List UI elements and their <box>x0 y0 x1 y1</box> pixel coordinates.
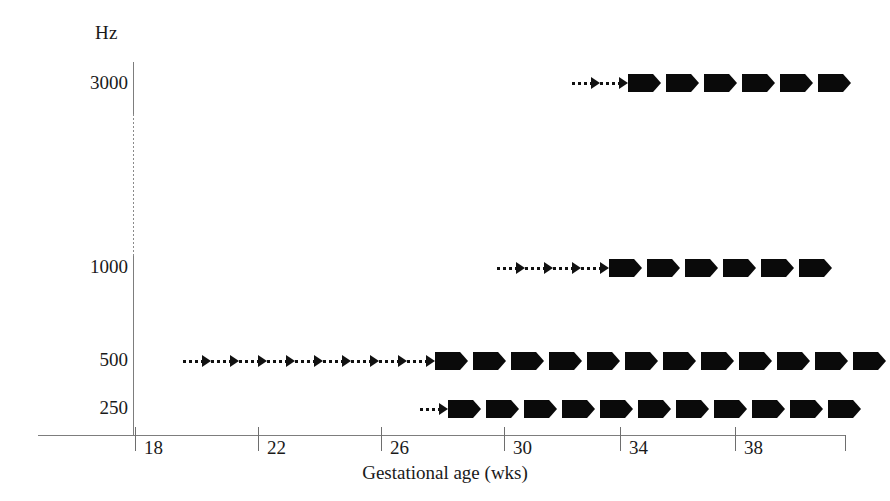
dotted-arrow-head <box>202 355 211 367</box>
solid-arrow-marker <box>435 352 468 370</box>
solid-arrow-marker <box>685 259 718 277</box>
x-tick-label: 30 <box>513 438 532 457</box>
x-axis-title: Gestational age (wks) <box>0 462 890 484</box>
y-axis-line-upper <box>133 62 134 114</box>
solid-arrow-marker <box>742 74 775 92</box>
solid-arrow-marker <box>609 259 642 277</box>
dotted-arrow-icon <box>572 77 600 90</box>
solid-arrow-marker <box>511 352 544 370</box>
dotted-arrow-icon <box>295 355 323 368</box>
solid-arrow-marker <box>600 400 633 418</box>
x-axis-end-tick <box>845 435 846 451</box>
series-row-250hz <box>420 396 861 422</box>
solid-arrow-marker <box>638 400 671 418</box>
solid-arrow-marker <box>761 259 794 277</box>
y-tick-label: 500 <box>56 350 128 369</box>
dotted-arrow-head <box>600 262 609 274</box>
x-tick-mark <box>381 427 382 451</box>
dotted-arrow-icon <box>211 355 239 368</box>
solid-arrow-marker <box>723 259 756 277</box>
dotted-arrow-icon <box>323 355 351 368</box>
solid-arrow-marker <box>448 400 481 418</box>
solid-arrow-marker <box>549 352 582 370</box>
y-axis-unit-label: Hz <box>95 22 118 44</box>
solid-arrow-marker <box>663 352 696 370</box>
x-tick-label: 34 <box>629 438 648 457</box>
dotted-arrow-icon <box>267 355 295 368</box>
solid-arrow-marker <box>828 400 861 418</box>
dotted-arrow-icon <box>525 262 553 275</box>
solid-arrow-marker <box>752 400 785 418</box>
solid-arrow-marker <box>676 400 709 418</box>
dotted-arrow-head <box>516 262 525 274</box>
dotted-arrow-head <box>314 355 323 367</box>
solid-arrow-marker <box>473 352 506 370</box>
dotted-arrow-icon <box>600 77 628 90</box>
dotted-arrow-icon <box>581 262 609 275</box>
dotted-arrow-head <box>439 403 448 415</box>
solid-arrow-marker <box>666 74 699 92</box>
solid-arrow-marker <box>780 74 813 92</box>
solid-arrow-marker <box>815 352 848 370</box>
solid-arrow-marker <box>701 352 734 370</box>
dotted-arrow-head <box>370 355 379 367</box>
solid-arrow-marker <box>486 400 519 418</box>
solid-arrow-marker <box>628 74 661 92</box>
dotted-arrow-icon <box>379 355 407 368</box>
x-tick-label: 22 <box>267 438 286 457</box>
dotted-arrow-icon <box>420 403 448 416</box>
solid-arrow-marker <box>714 400 747 418</box>
hearing-threshold-chart: Hz 30001000500250182226303438 Gestationa… <box>0 0 890 501</box>
series-row-3000hz <box>572 70 851 96</box>
dotted-arrow-icon <box>553 262 581 275</box>
dotted-arrow-head <box>544 262 553 274</box>
solid-arrow-marker <box>647 259 680 277</box>
solid-arrow-marker <box>790 400 823 418</box>
solid-arrow-marker <box>524 400 557 418</box>
solid-arrow-marker <box>799 259 832 277</box>
dotted-arrow-head <box>258 355 267 367</box>
dotted-arrow-head <box>230 355 239 367</box>
x-tick-mark <box>504 427 505 451</box>
x-tick-label: 18 <box>144 438 163 457</box>
solid-arrow-marker <box>704 74 737 92</box>
dotted-arrow-head <box>286 355 295 367</box>
dotted-arrow-icon <box>183 355 211 368</box>
x-tick-mark <box>258 427 259 451</box>
dotted-arrow-icon <box>407 355 435 368</box>
y-tick-label: 250 <box>56 398 128 417</box>
dotted-arrow-head <box>572 262 581 274</box>
x-tick-label: 26 <box>390 438 409 457</box>
y-tick-label: 1000 <box>56 257 128 276</box>
x-tick-mark <box>135 427 136 451</box>
solid-arrow-marker <box>853 352 886 370</box>
solid-arrow-marker <box>777 352 810 370</box>
solid-arrow-marker <box>562 400 595 418</box>
x-axis-line <box>38 435 845 436</box>
dotted-arrow-icon <box>497 262 525 275</box>
x-tick-label: 38 <box>744 438 763 457</box>
dotted-arrow-icon <box>351 355 379 368</box>
dotted-arrow-icon <box>239 355 267 368</box>
dotted-arrow-head <box>591 77 600 89</box>
dotted-arrow-head <box>619 77 628 89</box>
series-row-1000hz <box>497 255 832 281</box>
solid-arrow-marker <box>625 352 658 370</box>
solid-arrow-marker <box>587 352 620 370</box>
solid-arrow-marker <box>739 352 772 370</box>
dotted-arrow-head <box>426 355 435 367</box>
series-row-500hz <box>183 348 886 374</box>
y-tick-label: 3000 <box>56 73 128 92</box>
y-axis-line-lower <box>133 256 134 436</box>
solid-arrow-marker <box>818 74 851 92</box>
x-tick-mark <box>735 427 736 451</box>
y-axis-break-dotted <box>133 114 134 256</box>
x-tick-mark <box>620 427 621 451</box>
dotted-arrow-head <box>398 355 407 367</box>
dotted-arrow-head <box>342 355 351 367</box>
